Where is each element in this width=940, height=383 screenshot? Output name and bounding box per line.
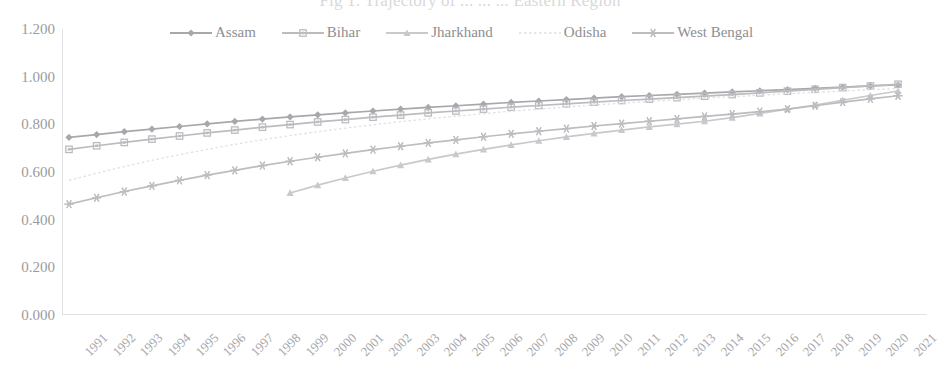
x-axis-tick: 2007 xyxy=(524,330,554,360)
data-point-diamond xyxy=(590,95,597,102)
x-axis-tick: 2018 xyxy=(828,330,858,360)
y-axis-tick: 1.200 xyxy=(21,21,55,38)
x-axis-tick: 1999 xyxy=(302,330,332,360)
x-axis-tick: 2009 xyxy=(579,330,609,360)
data-point-asterisk xyxy=(396,142,405,150)
data-point-diamond xyxy=(286,113,293,120)
data-point-asterisk xyxy=(175,176,184,184)
data-point-diamond xyxy=(342,109,349,116)
x-axis-tick: 2016 xyxy=(772,330,802,360)
data-point-asterisk xyxy=(92,194,101,202)
data-point-diamond xyxy=(314,111,321,118)
data-point-diamond xyxy=(231,118,238,125)
data-point-diamond xyxy=(563,96,570,103)
data-point-asterisk xyxy=(120,188,129,196)
x-axis-tick: 2014 xyxy=(717,330,747,360)
data-point-diamond xyxy=(480,100,487,107)
x-axis-tick: 2011 xyxy=(634,330,663,359)
y-axis-tick: 0.400 xyxy=(21,211,55,228)
data-point-asterisk xyxy=(230,166,239,174)
x-axis-tick: 2001 xyxy=(358,330,388,360)
x-axis-tick: 2017 xyxy=(800,330,830,360)
data-point-diamond xyxy=(121,128,128,135)
data-point-asterisk xyxy=(368,146,377,154)
chart-container: Fig 1. Trajectory of ... ... ... Eastern… xyxy=(0,0,940,383)
x-axis-tick: 2000 xyxy=(330,330,360,360)
chart-title: Fig 1. Trajectory of ... ... ... Eastern… xyxy=(0,0,940,11)
data-point-asterisk xyxy=(451,136,460,144)
x-axis-tick: 2015 xyxy=(745,330,775,360)
x-axis-tick: 1994 xyxy=(164,330,194,360)
x-axis-tick: 1993 xyxy=(137,330,167,360)
x-axis-tick: 2002 xyxy=(385,330,415,360)
x-axis-tick: 2020 xyxy=(883,330,913,360)
x-axis-tick: 1992 xyxy=(109,330,139,360)
x-axis-tick: 1991 xyxy=(81,330,111,360)
data-point-asterisk xyxy=(341,150,350,158)
data-point-diamond xyxy=(176,123,183,130)
data-point-asterisk xyxy=(479,133,488,141)
x-axis-tick: 1996 xyxy=(220,330,250,360)
x-axis-tick: 2006 xyxy=(496,330,526,360)
data-point-asterisk xyxy=(562,125,571,133)
data-point-asterisk xyxy=(258,162,267,170)
x-axis-tick: 2008 xyxy=(551,330,581,360)
x-axis-tick: 1995 xyxy=(192,330,222,360)
x-axis-tick: 2013 xyxy=(689,330,719,360)
data-point-diamond xyxy=(508,99,515,106)
y-axis-tick: 1.000 xyxy=(21,68,55,85)
x-axis-tick: 2019 xyxy=(855,330,885,360)
y-axis-tick: 0.600 xyxy=(21,164,55,181)
data-point-asterisk xyxy=(147,182,156,190)
data-point-asterisk xyxy=(617,120,626,128)
x-axis-tick: 2021 xyxy=(910,330,940,360)
data-point-asterisk xyxy=(313,153,322,161)
data-point-diamond xyxy=(259,115,266,122)
x-axis-tick: 1998 xyxy=(275,330,305,360)
plot-area: 1.2001.0000.8000.6000.4000.2000.00019911… xyxy=(62,29,927,315)
x-axis-tick: 2005 xyxy=(468,330,498,360)
x-axis-tick: 2003 xyxy=(413,330,443,360)
x-axis-tick: 2010 xyxy=(606,330,636,360)
x-axis-tick: 2012 xyxy=(662,330,692,360)
data-point-asterisk xyxy=(507,130,516,138)
data-point-asterisk xyxy=(590,122,599,130)
x-axis-tick: 1997 xyxy=(247,330,277,360)
data-point-asterisk xyxy=(65,200,74,208)
data-point-asterisk xyxy=(286,157,295,165)
data-point-asterisk xyxy=(534,127,543,135)
y-axis-tick: 0.800 xyxy=(21,116,55,133)
data-point-diamond xyxy=(535,97,542,104)
y-axis-tick: 0.000 xyxy=(21,307,55,324)
y-axis-tick: 0.200 xyxy=(21,259,55,276)
series-bihar xyxy=(66,81,901,152)
series-layer xyxy=(63,29,928,315)
x-axis-tick: 2004 xyxy=(441,330,471,360)
series-jharkhand xyxy=(286,87,901,196)
data-point-diamond xyxy=(148,126,155,133)
data-point-asterisk xyxy=(424,139,433,147)
data-point-diamond xyxy=(93,131,100,138)
data-point-diamond xyxy=(65,134,72,141)
data-point-asterisk xyxy=(203,171,212,179)
data-point-diamond xyxy=(204,120,211,127)
